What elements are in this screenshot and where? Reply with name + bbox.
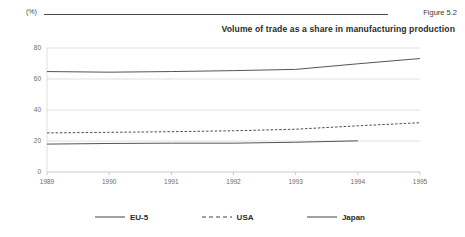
chart-legend: EU-5 USA Japan xyxy=(95,207,365,227)
plot-area: 020406080 1989199019911992199319941995 xyxy=(0,0,465,200)
gridlines xyxy=(47,48,420,172)
y-axis-tick-label: 60 xyxy=(17,75,41,82)
y-axis-tick-label: 40 xyxy=(17,106,41,113)
series-lines xyxy=(47,59,420,145)
legend-item-1: USA xyxy=(202,213,254,222)
chart-svg xyxy=(0,0,465,200)
legend-label-eu5: EU-5 xyxy=(130,213,148,222)
legend-item-0: EU-5 xyxy=(95,213,148,222)
x-axis-tick-label: 1989 xyxy=(27,178,67,185)
x-axis-ticks xyxy=(47,172,420,175)
legend-label-usa: USA xyxy=(237,213,254,222)
y-axis-tick-label: 20 xyxy=(17,137,41,144)
y-axis-tick-label: 80 xyxy=(17,44,41,51)
y-axis-tick-label: 0 xyxy=(17,168,41,175)
x-axis-tick-label: 1991 xyxy=(151,178,191,185)
x-axis-tick-label: 1993 xyxy=(276,178,316,185)
legend-label-japan: Japan xyxy=(342,213,365,222)
legend-swatch-usa xyxy=(202,213,232,221)
x-axis-tick-label: 1995 xyxy=(400,178,440,185)
legend-item-2: Japan xyxy=(307,213,365,222)
x-axis-tick-label: 1994 xyxy=(338,178,378,185)
legend-swatch-japan xyxy=(307,213,337,221)
x-axis-tick-label: 1992 xyxy=(214,178,254,185)
series-line-usa xyxy=(47,123,420,133)
legend-swatch-eu5 xyxy=(95,213,125,221)
series-line-japan xyxy=(47,59,420,73)
figure-page: (%) Figure 5.2 Volume of trade as a shar… xyxy=(0,0,465,237)
x-axis-tick-label: 1990 xyxy=(89,178,129,185)
